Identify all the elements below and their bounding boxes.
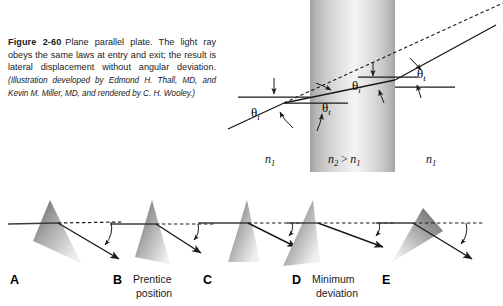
prism-panel-c: C — [198, 200, 305, 287]
panel-letter-c: C — [203, 273, 212, 287]
label-theta-i-entry: θi — [251, 105, 260, 122]
label-index-right: n1 — [426, 152, 436, 168]
deviation-angle-arc-c — [289, 223, 293, 236]
angle-arrow-entry-bottom — [280, 112, 293, 128]
deviation-angle-arc-d — [376, 223, 380, 236]
figure-number: Figure 2-60 — [8, 37, 61, 47]
panel-letter-b: B — [113, 273, 122, 287]
panel-letter-e: E — [382, 273, 390, 287]
panel-caption-d-line1: Minimum — [312, 273, 355, 285]
label-index-left: n1 — [265, 152, 275, 168]
exit-ray — [395, 25, 496, 80]
prism-shape-a — [33, 200, 81, 263]
prism-shape-d — [283, 200, 320, 266]
figure-caption: Figure 2-60Plane parallel plate. The lig… — [8, 36, 216, 101]
deviation-angle-arc-a — [105, 222, 112, 245]
label-theta-t-exit: θt — [417, 66, 426, 83]
prism-shape-b — [135, 200, 170, 264]
panel-letter-d: D — [292, 273, 301, 287]
prism-panel-b: B Prentice position — [110, 200, 214, 299]
panel-caption-b-line2: position — [136, 287, 172, 299]
panel-caption-b-line1: Prentice — [133, 273, 172, 285]
panel-caption-d-line2: deviation — [316, 287, 358, 299]
deviation-angle-arc-e — [461, 223, 467, 244]
prism-shape-c — [228, 200, 260, 262]
prism-panel-d: D Minimum deviation — [283, 200, 394, 299]
plane-parallel-plate-figure: θi θt θi θt n1 n2>n1 n1 — [218, 0, 503, 190]
deviation-angle-arc-b — [194, 224, 199, 240]
prism-panel-a: A — [8, 200, 122, 287]
incoming-ray-a — [8, 223, 58, 224]
prism-orientation-row: A B Prentice position C — [0, 196, 503, 306]
label-index-middle: n2>n1 — [328, 152, 361, 168]
prism-panel-e: E — [376, 208, 484, 287]
deviated-ray-d — [318, 223, 383, 247]
undeviated-dashed-a — [58, 222, 122, 223]
prism-shape-e — [392, 208, 443, 262]
panel-letter-a: A — [10, 273, 19, 287]
figure-credit: (Illustration developed by Edmond H. Tha… — [8, 76, 216, 99]
